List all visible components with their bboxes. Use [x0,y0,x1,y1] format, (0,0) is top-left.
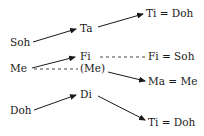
node-fi-soh: Fi = Soh [148,50,195,62]
arrow-ta-to-ti-doh [98,14,143,27]
arrow-soh-to-ta [33,29,76,42]
node-ta: Ta [80,22,92,34]
node-ti-doh-top: Ti = Doh [146,7,194,19]
arrow-doh-to-di [34,95,76,110]
arrow-di-to-ti-doh [98,96,145,120]
node-di: Di [80,88,92,100]
node-me-paren: (Me) [80,62,105,74]
diagram: Soh Ta Ti = Doh Me Fi Fi = Soh (Me) Ma =… [0,0,204,136]
arrow-me-to-fi [32,57,75,68]
diagram-canvas: Soh Ta Ti = Doh Me Fi Fi = Soh (Me) Ma =… [0,0,204,136]
node-ti-doh-bottom: Ti = Doh [148,116,196,128]
node-ma-me: Ma = Me [148,75,197,87]
node-soh: Soh [10,36,31,48]
node-fi: Fi [80,50,91,62]
node-doh: Doh [10,104,32,116]
node-me: Me [10,62,27,74]
arrow-me-paren-to-ma-me [108,72,145,81]
